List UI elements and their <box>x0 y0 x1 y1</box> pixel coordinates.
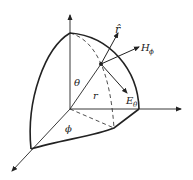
h-phi-arrow <box>101 47 139 64</box>
x-axis <box>12 109 70 171</box>
label-r: r <box>93 90 99 101</box>
label-theta: θ <box>74 77 80 88</box>
label-h-phi-sub: ϕ <box>149 48 154 56</box>
projection-dashed <box>70 109 114 128</box>
r-hat-arrow <box>101 33 118 64</box>
label-e-theta-sub: θ <box>133 101 138 109</box>
label-phi: ϕ <box>65 123 72 134</box>
spherical-coordinates-diagram: r̂ H ϕ E θ θ r ϕ <box>0 0 193 180</box>
label-r-hat: r̂ <box>115 23 121 36</box>
sphere-outline-bottom <box>31 109 139 149</box>
e-theta-arrow <box>101 64 127 93</box>
